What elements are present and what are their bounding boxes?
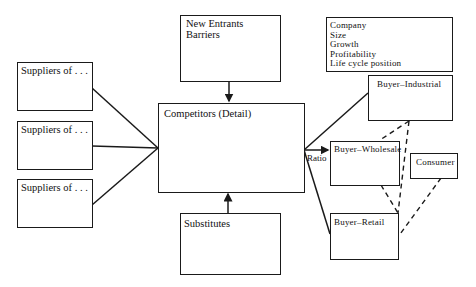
substitutes-box: Substitutes (180, 213, 281, 275)
company-attributes-box: Company Size Growth Profitability Life c… (326, 17, 453, 72)
buyer-wholesale-box: Buyer–Wholesale (330, 141, 400, 186)
wholesale-retail-dash (381, 185, 398, 213)
buyer-retail-box: Buyer–Retail (330, 213, 399, 260)
supplier-box-3: Suppliers of . . . (17, 179, 93, 228)
buyer-industrial-box: Buyer–Industrial (368, 75, 453, 121)
buyer-retail-label: Buyer–Retail (334, 218, 384, 228)
new-entrants-line1: New Entrants (186, 18, 243, 29)
consumer-box: Consumer (410, 153, 458, 179)
new-entrants-label: New Entrants Barriers (186, 18, 243, 40)
ratio-label: Ratio (307, 153, 327, 163)
attributes-list: Company Size Growth Profitability Life c… (330, 21, 401, 69)
supplier2-connector (92, 146, 158, 148)
supplier-box-1: Suppliers of . . . (17, 62, 93, 111)
supplier-label: Suppliers of . . . (21, 65, 88, 76)
industrial-wholesale-dash (380, 121, 409, 140)
supplier3-connector (92, 148, 158, 205)
buyer-industrial-label: Buyer–Industrial (377, 80, 441, 90)
buyer-wholesale-label: Buyer–Wholesale (334, 145, 401, 155)
consumer-retail-dash (398, 178, 441, 237)
supplier-box-2: Suppliers of . . . (17, 121, 93, 170)
substitutes-label: Substitutes (184, 218, 230, 229)
competitors-label: Competitors (Detail) (164, 108, 251, 119)
supplier1-connector (92, 88, 158, 148)
supplier-label: Suppliers of . . . (21, 124, 88, 135)
consumer-label: Consumer (416, 158, 455, 168)
new-entrants-box: New Entrants Barriers (180, 15, 281, 82)
supplier-label: Suppliers of . . . (21, 182, 88, 193)
new-entrants-line2: Barriers (186, 29, 243, 40)
attribute-item: Life cycle position (330, 59, 401, 69)
competitors-box: Competitors (Detail) (158, 103, 305, 193)
